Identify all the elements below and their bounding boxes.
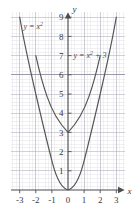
curve-label-1-exponent: 2 <box>40 21 43 27</box>
y-axis-label: y <box>72 4 77 14</box>
y-tick-label-6: 6 <box>59 70 64 80</box>
parabola-plot: 1 2 3 4 5 6 7 8 9 -3 -2 -1 0 1 2 3 y x y… <box>0 0 136 217</box>
y-tick-label-4: 4 <box>59 108 64 118</box>
x-tick-label-neg3: -3 <box>16 195 24 205</box>
x-tick-label-neg2: -2 <box>32 195 40 205</box>
y-tick-label-5: 5 <box>59 89 64 99</box>
x-axis-label: x <box>127 186 132 196</box>
y-tick-label-8: 8 <box>59 32 64 42</box>
y-tick-label-9: 9 <box>59 12 64 22</box>
y-tick-label-7: 7 <box>59 51 64 61</box>
x-tick-label-2: 2 <box>98 195 103 205</box>
curve-label-2-base: y = x <box>73 51 91 60</box>
graph-figure: 1 2 3 4 5 6 7 8 9 -3 -2 -1 0 1 2 3 y x y… <box>0 0 136 217</box>
curve-label-2-tail: + 3 <box>93 51 106 60</box>
x-tick-label-neg1: -1 <box>48 195 56 205</box>
y-tick-label-2: 2 <box>59 147 64 157</box>
x-tick-label-0: 0 <box>66 195 71 205</box>
curve-label-1-base: y = x <box>23 22 41 31</box>
x-tick-label-3: 3 <box>114 195 119 205</box>
curve-label-y-x-squared: y = x2 <box>23 21 44 31</box>
x-tick-label-1: 1 <box>82 195 87 205</box>
y-tick-label-3: 3 <box>59 128 64 138</box>
y-tick-label-1: 1 <box>59 166 64 176</box>
curve-label-y-x-squared-plus-3: y = x2 + 3 <box>73 50 107 60</box>
